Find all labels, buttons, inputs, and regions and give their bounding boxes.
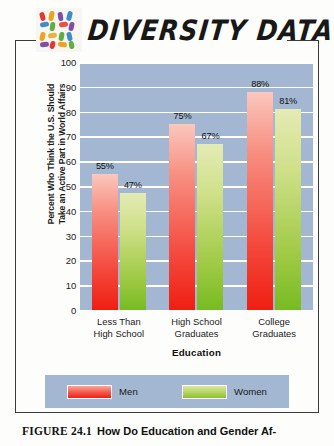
legend-item-women: Women [182,385,267,399]
bar-value-label: 55% [96,161,114,171]
bar-rect: 67% [197,144,223,310]
bar-rect: 88% [247,92,273,310]
legend-item-men: Men [67,385,138,399]
bar-value-label: 75% [174,111,192,121]
diversity-data-figure: DIVERSITY DATA Percent Who Think the U.S… [0,0,334,446]
bar-men: 55% [92,62,118,310]
y-axis-tick-label: 90 [66,81,76,92]
x-axis-category-line: High School [160,316,232,328]
frame-bottom-edge [15,412,319,413]
y-axis-tick-label: 30 [66,230,76,241]
figure-header: DIVERSITY DATA [36,4,304,56]
figure-number: FIGURE 24.1 [22,425,92,437]
plot-area: 55%47%75%67%88%81% [80,62,313,310]
y-axis-tick-label: 100 [61,57,76,68]
y-axis-ticks: 1009080706050403020100 [50,62,76,310]
x-axis-title: Education [80,347,313,358]
x-axis-category-line: Less Than [83,316,155,328]
legend-label-men: Men [119,386,138,397]
bar-men: 75% [169,62,195,310]
bar-rect: 47% [120,193,146,310]
brand-title: DIVERSITY DATA [87,16,334,44]
bar-value-label: 47% [124,180,142,190]
bar-men: 88% [247,62,273,310]
bar-rect: 55% [92,174,118,310]
y-axis-tick-label: 80 [66,106,76,117]
bar-value-label: 67% [202,131,220,141]
y-axis-tick-label: 70 [66,131,76,142]
bar-women: 47% [120,62,146,310]
bar-rect: 75% [169,124,195,310]
diversity-mosaic-icon [36,8,82,52]
bar-groups: 55%47%75%67%88%81% [80,62,313,310]
bar-value-label: 88% [251,79,269,89]
x-axis-category-line: Graduates [160,328,232,340]
figure-caption: FIGURE 24.1How Do Education and Gender A… [22,425,318,437]
x-axis-category-labels: Less ThanHigh SchoolHigh SchoolGraduates… [80,316,313,340]
bar-group: 75%67% [169,62,223,310]
bar-women: 81% [275,62,301,310]
x-axis-category-line: Graduates [238,328,310,340]
y-axis-tick-label: 40 [66,205,76,216]
chart-legend: Men Women [45,375,289,408]
frame-right-edge [318,40,319,413]
figure-caption-text: How Do Education and Gender Af- [97,425,276,437]
y-axis-tick-label: 50 [66,181,76,192]
legend-label-women: Women [234,386,267,397]
y-axis-tick-label: 0 [71,305,76,316]
y-axis-tick-label: 10 [66,280,76,291]
x-axis-category-label: CollegeGraduates [238,316,310,340]
x-axis-category-label: Less ThanHigh School [83,316,155,340]
bar-value-label: 81% [279,96,297,106]
y-axis-tick-label: 60 [66,156,76,167]
legend-swatch-women-icon [182,385,227,399]
bar-rect: 81% [275,109,301,310]
bar-women: 67% [197,62,223,310]
x-axis-category-line: High School [83,328,155,340]
x-axis-category-line: College [238,316,310,328]
bar-group: 88%81% [247,62,301,310]
legend-swatch-men-icon [67,385,112,399]
bar-chart: Percent Who Think the U.S. Should Take a… [16,58,318,358]
bar-group: 55%47% [92,62,146,310]
y-axis-tick-label: 20 [66,255,76,266]
x-axis-category-label: High SchoolGraduates [160,316,232,340]
